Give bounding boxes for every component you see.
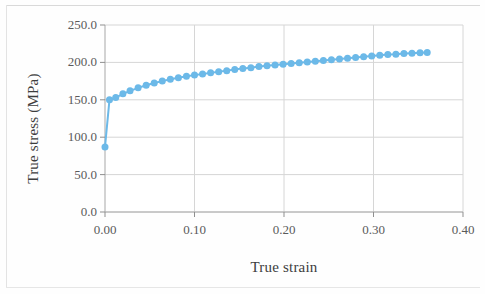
data-point-marker — [119, 90, 126, 97]
data-point-marker — [255, 63, 262, 70]
y-axis-tick-label: 0.0 — [51, 204, 97, 220]
data-point-marker — [143, 82, 150, 89]
data-point-marker — [368, 53, 375, 60]
data-point-marker — [183, 73, 190, 80]
data-point-marker — [135, 84, 142, 91]
x-axis-tick-label: 0.10 — [165, 222, 225, 238]
data-point-marker — [336, 56, 343, 63]
data-point-marker — [102, 143, 109, 150]
data-point-marker — [106, 96, 113, 103]
data-point-marker — [231, 66, 238, 73]
data-point-marker — [312, 58, 319, 65]
x-axis-tick-label: 0.30 — [344, 222, 404, 238]
stress-strain-plot — [0, 0, 485, 294]
data-point-marker — [384, 51, 391, 58]
data-point-marker — [127, 87, 134, 94]
data-point-marker — [112, 94, 119, 101]
y-axis-tick-label: 100.0 — [51, 129, 97, 145]
data-point-marker — [360, 53, 367, 60]
x-axis-tick-label: 0.00 — [75, 222, 135, 238]
data-point-marker — [264, 62, 271, 69]
data-point-marker — [223, 67, 230, 74]
data-point-marker — [175, 74, 182, 81]
data-point-marker — [296, 59, 303, 66]
data-point-marker — [328, 56, 335, 63]
data-point-marker — [304, 59, 311, 66]
data-point-marker — [247, 64, 254, 71]
data-point-marker — [352, 54, 359, 61]
data-point-marker — [215, 68, 222, 75]
x-axis-tick-label: 0.40 — [433, 222, 485, 238]
y-axis-tick-label: 150.0 — [51, 92, 97, 108]
y-axis-tick-label: 200.0 — [51, 54, 97, 70]
data-point-marker — [392, 51, 399, 58]
y-axis-title: True stress (MPa) — [25, 49, 42, 209]
data-point-marker — [417, 49, 424, 56]
chart-figure: 0.050.0100.0150.0200.0250.0 0.000.100.20… — [0, 0, 485, 294]
data-point-marker — [159, 78, 166, 85]
data-point-marker — [191, 72, 198, 79]
data-point-marker — [320, 57, 327, 64]
x-axis-tick-label: 0.20 — [254, 222, 314, 238]
data-point-marker — [376, 52, 383, 59]
data-point-marker — [207, 69, 214, 76]
data-point-marker — [239, 65, 246, 72]
data-point-marker — [424, 49, 431, 56]
data-point-marker — [199, 70, 206, 77]
data-point-marker — [151, 79, 158, 86]
data-point-marker — [280, 61, 287, 68]
data-point-marker — [272, 62, 279, 69]
data-point-marker — [408, 50, 415, 57]
y-axis-tick-label: 250.0 — [51, 17, 97, 33]
data-point-marker — [344, 55, 351, 62]
x-axis-title: True strain — [105, 259, 463, 276]
y-axis-tick-label: 50.0 — [51, 167, 97, 183]
data-point-marker — [288, 60, 295, 67]
data-point-marker — [167, 76, 174, 83]
data-point-marker — [400, 50, 407, 57]
